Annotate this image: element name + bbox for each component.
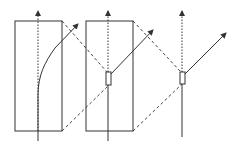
straight-ray-arrow-icon [185, 33, 226, 74]
straight-ray-arrow-icon [111, 30, 153, 74]
panel-thick-slab [15, 11, 78, 141]
optics-diagram [0, 0, 239, 142]
thin-element [180, 72, 185, 84]
curved-ray-arrow-icon [38, 24, 78, 131]
panel-thin-element [180, 11, 226, 137]
projection-lines-2 [133, 21, 182, 131]
thin-element [106, 72, 111, 85]
